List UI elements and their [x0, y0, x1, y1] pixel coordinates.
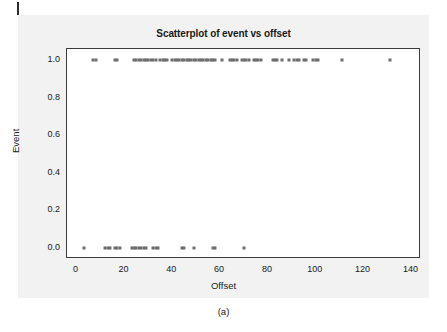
x-tick-label: 100 [300, 264, 330, 274]
y-tick-label: 0.8 [32, 92, 60, 102]
scatter-point [281, 59, 284, 62]
x-tick-label: 120 [348, 264, 378, 274]
scatter-point [259, 59, 262, 62]
scatter-point [183, 246, 186, 249]
x-tick-label: 20 [108, 264, 138, 274]
scatter-point [388, 59, 391, 62]
scatter-point [214, 246, 217, 249]
scatter-point [82, 246, 85, 249]
scatter-point [144, 246, 147, 249]
scatter-point [214, 59, 217, 62]
chart-title: Scatterplot of event vs offset [18, 28, 429, 39]
y-axis-title: Event [10, 129, 21, 153]
x-tick-label: 140 [395, 264, 425, 274]
x-tick-label: 0 [61, 264, 91, 274]
scatter-point [109, 246, 112, 249]
x-axis-title: Offset [18, 280, 429, 291]
y-tick-label: 0.6 [32, 129, 60, 139]
scatter-point [94, 59, 97, 62]
scatter-point [298, 59, 301, 62]
scatter-point [166, 59, 169, 62]
scatter-point [118, 246, 121, 249]
y-tick-label: 0.4 [32, 167, 60, 177]
scatter-point [341, 59, 344, 62]
y-tick-label: 1.0 [32, 54, 60, 64]
scatter-point [317, 59, 320, 62]
scatter-point [192, 246, 195, 249]
y-tick-label: 0.2 [32, 204, 60, 214]
scatter-point [276, 59, 279, 62]
scatter-point [305, 59, 308, 62]
scatter-point [243, 246, 246, 249]
page-margin-mark [17, 2, 19, 15]
scatter-point [221, 59, 224, 62]
y-tick-label: 0.0 [32, 242, 60, 252]
scatter-point [247, 59, 250, 62]
scatter-points-layer [67, 49, 419, 257]
scatter-point [288, 59, 291, 62]
figure-caption: (a) [0, 306, 447, 317]
scatter-point [116, 59, 119, 62]
scatter-point [156, 246, 159, 249]
plot-area [66, 48, 420, 258]
x-tick-label: 40 [156, 264, 186, 274]
x-tick-label: 60 [204, 264, 234, 274]
x-tick-label: 80 [252, 264, 282, 274]
scatter-point [235, 59, 238, 62]
figure-panel: Scatterplot of event vs offset Event 0.0… [18, 15, 429, 298]
scatter-point [154, 59, 157, 62]
